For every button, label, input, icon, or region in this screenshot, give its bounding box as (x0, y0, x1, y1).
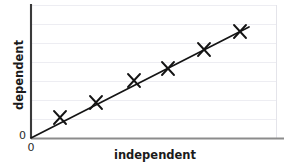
x-axis-label: independent (114, 148, 197, 162)
scatter-plot-figure: dependent independent 0 0 (0, 0, 287, 165)
y-axis-origin-tick-label: 0 (19, 129, 26, 142)
chart-canvas: dependent independent 0 0 (0, 0, 287, 165)
y-axis-label: dependent (12, 40, 26, 110)
x-axis-origin-tick-label: 0 (28, 141, 35, 154)
